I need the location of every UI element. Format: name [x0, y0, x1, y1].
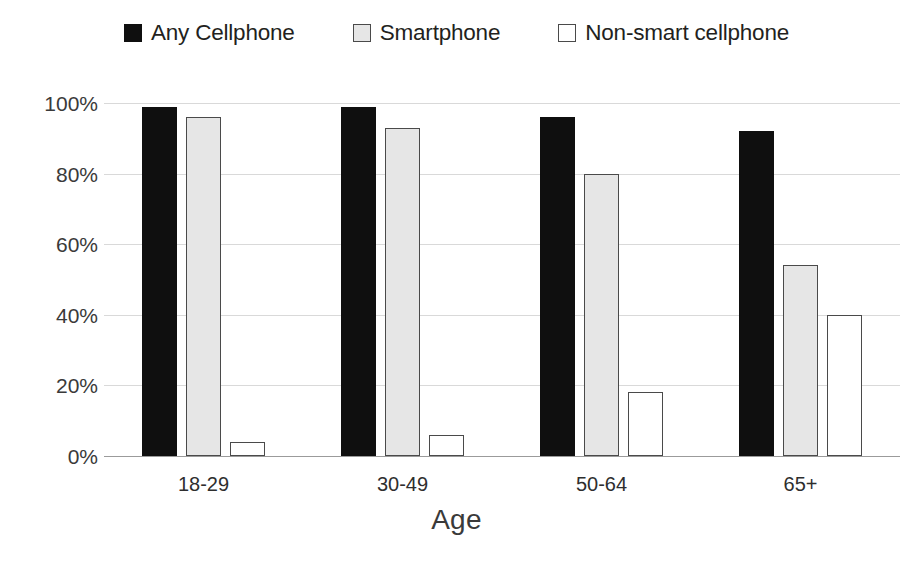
bar[interactable] — [827, 315, 862, 456]
bar[interactable] — [540, 117, 575, 456]
x-axis-tick-label: 65+ — [721, 474, 881, 494]
y-axis-tick-label: 0% — [22, 446, 98, 467]
x-axis-title: Age — [0, 506, 913, 534]
bar[interactable] — [142, 107, 177, 456]
x-axis-tick-label: 30-49 — [323, 474, 483, 494]
x-axis-tick-label: 18-29 — [124, 474, 284, 494]
x-axis: 18-2930-4950-6465+ — [104, 474, 900, 508]
y-axis-tick-label: 60% — [22, 234, 98, 255]
bar[interactable] — [385, 128, 420, 456]
bar-group — [142, 103, 265, 456]
bar[interactable] — [739, 131, 774, 456]
bar-chart: Any Cellphone Smartphone Non-smart cellp… — [0, 0, 913, 566]
y-axis-tick-label: 20% — [22, 375, 98, 396]
bar[interactable] — [429, 435, 464, 456]
y-axis-tick-label: 40% — [22, 304, 98, 325]
y-axis: 100%80%60%40%20%0% — [22, 90, 98, 470]
bar[interactable] — [584, 174, 619, 456]
x-axis-tick-label: 50-64 — [522, 474, 682, 494]
bar[interactable] — [628, 392, 663, 456]
bar[interactable] — [230, 442, 265, 456]
bar[interactable] — [783, 265, 818, 456]
y-axis-tick-label: 100% — [22, 93, 98, 114]
bars-layer — [104, 90, 900, 470]
plot-area: 100%80%60%40%20%0% 18-2930-4950-6465+ Ag… — [0, 0, 913, 566]
bar-group — [540, 103, 663, 456]
bar-group — [739, 103, 862, 456]
y-axis-tick-label: 80% — [22, 163, 98, 184]
bar-group — [341, 103, 464, 456]
bar[interactable] — [341, 107, 376, 456]
bar[interactable] — [186, 117, 221, 456]
